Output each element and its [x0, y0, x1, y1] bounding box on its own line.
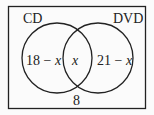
outside-region: 8: [73, 93, 80, 108]
dvd-only-region: 21 − x: [97, 53, 133, 68]
dvd-label: DVD: [113, 11, 143, 26]
cd-only-region: 18 − x: [26, 53, 62, 68]
intersection-region: x: [71, 53, 79, 68]
cd-label: CD: [23, 11, 42, 26]
venn-diagram: CD DVD 18 − x x 21 − x 8: [0, 0, 154, 115]
